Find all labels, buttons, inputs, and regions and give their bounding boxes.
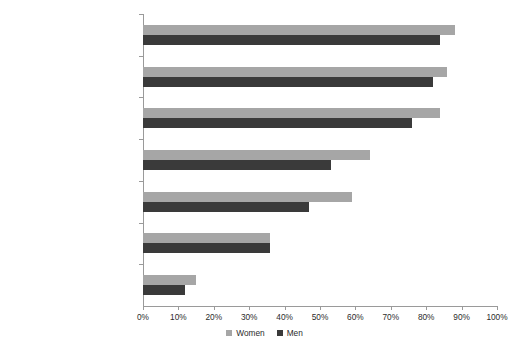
bar-men[interactable] <box>143 35 440 45</box>
legend-swatch-women-icon <box>226 330 232 336</box>
bar-women[interactable] <box>143 108 440 118</box>
bar-women[interactable] <box>143 150 370 160</box>
chart-legend: Women Men <box>0 329 529 337</box>
bar-men[interactable] <box>143 118 412 128</box>
legend-label-women: Women <box>236 329 264 337</box>
y-axis-tick <box>139 14 143 15</box>
bar-women[interactable] <box>143 25 455 35</box>
x-axis-tick <box>285 306 286 310</box>
x-axis-tick <box>497 306 498 310</box>
x-axis-tick-label: 40% <box>265 313 305 321</box>
y-axis-tick <box>139 264 143 265</box>
x-axis-tick-label: 0% <box>123 313 163 321</box>
legend-label-men: Men <box>287 329 303 337</box>
bar-men[interactable] <box>143 77 433 87</box>
x-axis-tick-label: 50% <box>300 313 340 321</box>
legend-item-men[interactable]: Men <box>277 329 303 337</box>
x-axis-tick <box>462 306 463 310</box>
bar-men[interactable] <box>143 202 309 212</box>
y-axis-tick <box>139 97 143 98</box>
x-axis-tick-label: 20% <box>194 313 234 321</box>
bar-men[interactable] <box>143 160 331 170</box>
x-axis-tick <box>214 306 215 310</box>
bar-men[interactable] <box>143 243 270 253</box>
y-axis-tick <box>139 223 143 224</box>
y-axis-tick <box>139 181 143 182</box>
chart-category-row: Historically Black Protestant <box>143 14 497 56</box>
bar-women[interactable] <box>143 275 196 285</box>
x-axis-tick-label: 80% <box>406 313 446 321</box>
legend-item-women[interactable]: Women <box>226 329 264 337</box>
y-axis-tick <box>139 139 143 140</box>
bar-chart: Historically Black ProtestantMormanEvang… <box>0 0 529 349</box>
x-axis-tick <box>355 306 356 310</box>
plot-area: Historically Black ProtestantMormanEvang… <box>143 14 497 306</box>
x-axis-tick-label: 100% <box>477 313 517 321</box>
x-axis-tick-label: 30% <box>229 313 269 321</box>
bar-men[interactable] <box>143 285 185 295</box>
bar-women[interactable] <box>143 192 352 202</box>
x-axis-tick <box>143 306 144 310</box>
x-axis-tick <box>178 306 179 310</box>
x-axis-tick <box>320 306 321 310</box>
x-axis-tick <box>426 306 427 310</box>
chart-category-row: Evangelical Protestant <box>143 97 497 139</box>
chart-category-row: Unaffiliated <box>143 264 497 306</box>
bar-women[interactable] <box>143 233 270 243</box>
chart-category-row: Establishment Protestant <box>143 181 497 223</box>
chart-category-row: Morman <box>143 56 497 98</box>
x-axis-tick <box>391 306 392 310</box>
x-axis-tick-label: 70% <box>371 313 411 321</box>
x-axis-tick-label: 90% <box>442 313 482 321</box>
chart-category-row: Jewish <box>143 223 497 265</box>
legend-swatch-men-icon <box>277 330 283 336</box>
chart-category-row: Catholic <box>143 139 497 181</box>
bar-women[interactable] <box>143 67 447 77</box>
x-axis-tick <box>249 306 250 310</box>
x-axis-tick-label: 60% <box>335 313 375 321</box>
y-axis-tick <box>139 56 143 57</box>
x-axis-tick-label: 10% <box>158 313 198 321</box>
